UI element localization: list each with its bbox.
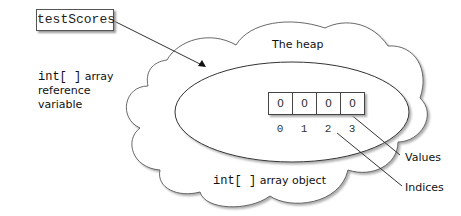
array-index: 0 xyxy=(268,123,292,135)
array-index: 2 xyxy=(316,123,340,135)
left-label-code: int[ ] xyxy=(38,70,81,84)
array-indices: 0 1 2 3 xyxy=(268,123,364,135)
test-scores-variable-box: testScores xyxy=(36,9,114,31)
left-label-rest: array xyxy=(81,70,113,83)
array-cell: 0 xyxy=(269,93,293,114)
reference-variable-label: int[ ] array reference variable xyxy=(38,70,114,112)
left-label-line3: variable xyxy=(38,98,114,112)
array-cell: 0 xyxy=(317,93,341,114)
indices-annotation: Indices xyxy=(405,181,444,194)
array-index: 3 xyxy=(340,123,364,135)
object-label-code: int[ ] xyxy=(213,174,256,188)
values-annotation: Values xyxy=(405,151,441,164)
array-cell: 0 xyxy=(341,93,364,114)
heap-label: The heap xyxy=(272,38,323,51)
object-label-rest: array object xyxy=(256,174,326,187)
left-label-line2: reference xyxy=(38,84,114,98)
array-cells: 0 0 0 0 xyxy=(268,92,365,115)
array-cell: 0 xyxy=(293,93,317,114)
array-object-label: int[ ] array object xyxy=(213,174,326,188)
array-index: 1 xyxy=(292,123,316,135)
